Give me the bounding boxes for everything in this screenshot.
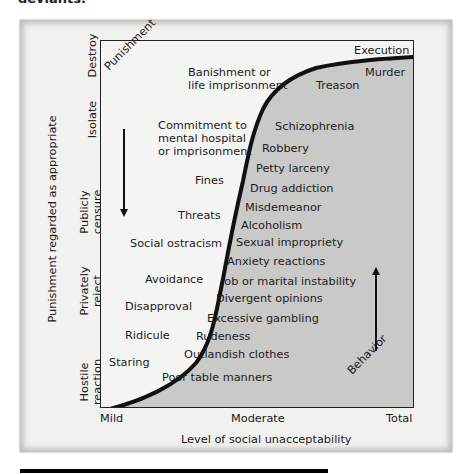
label-sexual-impropriety: Sexual impropriety: [236, 236, 343, 249]
label-disapproval: Disapproval: [125, 300, 192, 313]
label-rudeness: Rudeness: [196, 330, 251, 343]
label-alcoholism: Alcoholism: [241, 219, 302, 232]
bottom-rule: [20, 469, 328, 473]
label-anxiety-reactions: Anxiety reactions: [227, 255, 325, 268]
y-tick-publicly-line1: Publicly: [78, 190, 91, 233]
label-fines: Fines: [195, 174, 224, 187]
label-commitment-line2: mental hospital: [158, 132, 246, 145]
label-excessive-gambling: Excessive gambling: [207, 312, 319, 325]
label-murder: Murder: [365, 66, 405, 79]
label-treason: Treason: [316, 79, 359, 92]
y-axis-title: Punishment regarded as appropriate: [46, 123, 59, 323]
label-execution: Execution: [354, 44, 409, 57]
label-divergent-opinions: Divergent opinions: [216, 292, 323, 305]
label-outlandish-clothes: Outlandish clothes: [184, 348, 289, 361]
y-tick-privately-line1: Privately: [78, 266, 91, 315]
x-axis-title: Level of social unacceptability: [181, 433, 352, 446]
y-tick-hostile-line1: Hostile: [78, 363, 91, 402]
label-petty-larceny: Petty larceny: [256, 162, 330, 175]
y-tick-isolate: Isolate: [86, 90, 99, 150]
label-drug-addiction: Drug addiction: [250, 182, 334, 195]
label-misdemeanor: Misdemeanor: [245, 201, 322, 214]
label-banishment-line1: Banishment or: [188, 66, 271, 79]
label-social-ostracism: Social ostracism: [130, 237, 222, 250]
label-threats: Threats: [178, 209, 221, 222]
label-commitment-line1: Commitment to: [158, 119, 247, 132]
label-commitment-line3: or imprisonment: [158, 145, 252, 158]
label-banishment: Banishment or life imprisonment: [188, 66, 287, 92]
label-staring: Staring: [109, 356, 150, 369]
label-commitment: Commitment to mental hospital or impriso…: [158, 119, 252, 158]
punishment-arrow-head: [120, 209, 128, 217]
y-tick-destroy: Destroy: [86, 26, 99, 86]
label-banishment-line2: life imprisonment: [188, 79, 287, 92]
caption-fragment: deviants.: [18, 0, 86, 6]
label-ridicule: Ridicule: [125, 329, 170, 342]
label-avoidance: Avoidance: [145, 273, 203, 286]
label-job-instability: Job or marital instability: [221, 275, 356, 288]
x-tick-total: Total: [386, 412, 412, 425]
x-tick-mild: Mild: [100, 412, 123, 425]
label-poor-table-manners: Poor table manners: [162, 371, 272, 384]
label-schizophrenia: Schizophrenia: [275, 120, 354, 133]
label-robbery: Robbery: [262, 142, 309, 155]
x-tick-moderate: Moderate: [231, 412, 285, 425]
